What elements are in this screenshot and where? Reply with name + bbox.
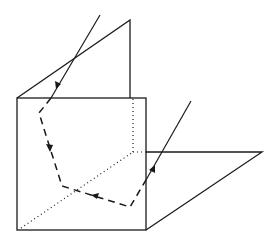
reflected-arrow-1-icon [46, 144, 53, 152]
hidden-edges [21, 99, 146, 228]
front-vertical-plane [17, 98, 146, 230]
reflected-arrow-2-icon [91, 193, 99, 199]
outgoing-ray [146, 101, 191, 180]
corner-reflector-diagram [0, 0, 276, 246]
outgoing-arrow-icon [149, 165, 155, 173]
bottom-horizontal-plane [146, 152, 262, 230]
reflected-path [39, 98, 146, 207]
incoming-ray [51, 15, 100, 98]
reflected-path-line [39, 98, 146, 207]
